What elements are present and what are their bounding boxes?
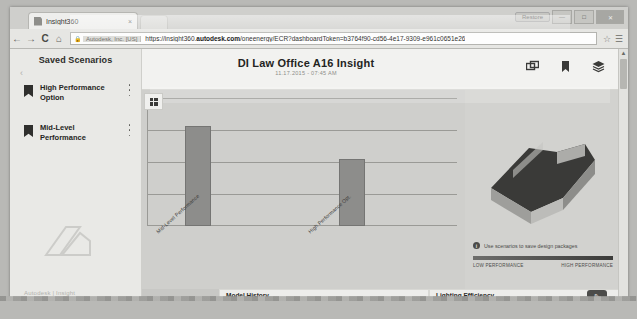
- chart-plot-area: [147, 98, 457, 226]
- home-icon[interactable]: ⌂: [52, 33, 66, 44]
- page-favicon-icon: [34, 17, 42, 26]
- scenario-label: High Performance Option: [40, 83, 112, 102]
- browser-titlebar: Insight360 × Restore — □ ✕: [10, 7, 628, 29]
- performance-gradient-bar: [473, 256, 613, 260]
- saved-scenarios-sidebar: Saved Scenarios ‹ High Performance Optio…: [10, 49, 142, 306]
- page-title: DI Law Office A16 Insight: [141, 57, 471, 69]
- address-bar[interactable]: 🔒 Autodesk, Inc. [US] https://insight360…: [70, 32, 597, 45]
- close-window-button[interactable]: ✕: [596, 10, 624, 24]
- restore-label[interactable]: Restore: [515, 12, 550, 22]
- scale-low-label: LOW PERFORMANCE: [473, 263, 523, 268]
- grid-view-icon[interactable]: [144, 93, 163, 110]
- bookmark-icon: [24, 125, 33, 137]
- browser-tab-insight360[interactable]: Insight360 ×: [28, 12, 138, 29]
- back-icon[interactable]: ←: [10, 33, 24, 44]
- 3d-building-model[interactable]: [473, 100, 611, 240]
- design-package-note: i Use scenarios to save design packages: [473, 242, 613, 249]
- sidebar-heading: Saved Scenarios: [10, 55, 141, 65]
- photo-torn-edge: [0, 296, 637, 301]
- monitor-screen: Insight360 × Restore — □ ✕ ← → C ⌂ 🔒 Aut…: [10, 7, 628, 306]
- address-bar-url: https://insight360.autodesk.com/oneenerg…: [145, 35, 465, 42]
- bar-high-performance-option[interactable]: [339, 159, 365, 226]
- gridline: [147, 98, 457, 99]
- lock-icon: 🔒: [74, 35, 81, 42]
- timestamp: 11.17.2015 - 07:45 AM: [141, 70, 471, 76]
- scenario-comparison-chart: Mid-Level Performance High Performance O…: [141, 90, 465, 289]
- duplicate-icon[interactable]: [526, 60, 539, 73]
- header-actions: [526, 60, 605, 73]
- scenario-item-mid-level[interactable]: Mid-Level Performance: [10, 121, 141, 155]
- design-package-note-text: Use scenarios to save design packages: [484, 243, 577, 249]
- browser-navbar: ← → C ⌂ 🔒 Autodesk, Inc. [US] https://in…: [10, 29, 628, 49]
- close-tab-icon[interactable]: ×: [128, 18, 132, 25]
- photographed-screen-frame: Insight360 × Restore — □ ✕ ← → C ⌂ 🔒 Aut…: [0, 0, 637, 319]
- bar-mid-level-performance[interactable]: [185, 126, 211, 226]
- layers-icon[interactable]: [592, 60, 605, 73]
- page-scrollbar[interactable]: ▲ ▼: [618, 49, 628, 306]
- scenario-item-high-performance[interactable]: High Performance Option: [10, 81, 141, 115]
- scroll-up-icon[interactable]: ▲: [619, 49, 628, 58]
- scale-high-label: HIGH PERFORMANCE: [561, 263, 613, 268]
- scenario-label: Mid-Level Performance: [40, 123, 112, 142]
- forward-icon[interactable]: →: [24, 33, 38, 44]
- dashboard-header: DI Law Office A16 Insight 11.17.2015 - 0…: [141, 49, 619, 90]
- tab-label: Insight360: [46, 18, 125, 25]
- page-viewport: Saved Scenarios ‹ High Performance Optio…: [10, 49, 628, 306]
- reload-icon[interactable]: C: [38, 33, 52, 44]
- bookmark-icon: [24, 85, 33, 97]
- bookmark-star-icon[interactable]: ☆: [603, 34, 611, 44]
- site-security-label: Autodesk, Inc. [US]: [83, 36, 141, 42]
- scrollbar-thumb[interactable]: [620, 59, 627, 89]
- bookmark-icon[interactable]: [559, 60, 572, 73]
- new-tab-button[interactable]: [140, 15, 168, 30]
- performance-scale-labels: LOW PERFORMANCE HIGH PERFORMANCE: [473, 263, 613, 268]
- collapse-sidebar-icon[interactable]: ‹: [20, 68, 23, 78]
- window-controls: Restore — □ ✕: [515, 10, 624, 24]
- kebab-menu-icon[interactable]: [128, 124, 131, 136]
- info-icon: i: [473, 242, 480, 249]
- tab-strip: Insight360 ×: [28, 11, 288, 29]
- design-package-panel: i Use scenarios to save design packages …: [465, 90, 619, 289]
- browser-menu-icon[interactable]: ☰: [615, 34, 623, 44]
- minimize-button[interactable]: —: [552, 10, 572, 24]
- browser-window: Insight360 × Restore — □ ✕ ← → C ⌂ 🔒 Aut…: [10, 7, 628, 306]
- maximize-button[interactable]: □: [574, 10, 594, 24]
- autodesk-watermark-logo: [40, 221, 96, 263]
- kebab-menu-icon[interactable]: [128, 84, 131, 96]
